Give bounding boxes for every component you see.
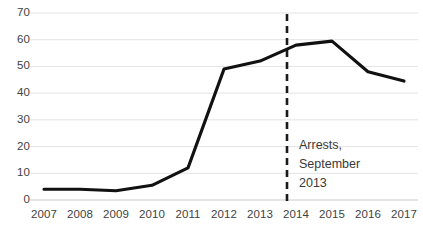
annotation-line: September	[299, 155, 360, 174]
y-tick-label: 50	[0, 60, 30, 71]
arrests-annotation: Arrests,September2013	[299, 136, 360, 193]
x-tick-label: 2010	[132, 208, 172, 220]
x-tick-label: 2012	[204, 208, 244, 220]
chart-canvas	[0, 0, 423, 228]
y-tick-label: 10	[0, 167, 30, 178]
y-tick-label: 70	[0, 7, 30, 18]
x-tick-label: 2009	[96, 208, 136, 220]
x-tick-label: 2016	[348, 208, 388, 220]
y-tick-label: 20	[0, 141, 30, 152]
line-chart: 010203040506070 200720082009201020112012…	[0, 0, 423, 228]
annotation-line: Arrests,	[299, 136, 360, 155]
x-tick-label: 2007	[24, 208, 64, 220]
y-tick-label: 30	[0, 114, 30, 125]
x-tick-label: 2011	[168, 208, 208, 220]
x-tick-label: 2013	[240, 208, 280, 220]
x-tick-label: 2017	[384, 208, 423, 220]
y-tick-label: 60	[0, 34, 30, 45]
y-tick-label: 40	[0, 87, 30, 98]
x-tick-label: 2015	[312, 208, 352, 220]
x-tick-label: 2014	[276, 208, 316, 220]
annotation-line: 2013	[299, 174, 360, 193]
y-tick-label: 0	[0, 194, 30, 205]
x-tick-label: 2008	[60, 208, 100, 220]
